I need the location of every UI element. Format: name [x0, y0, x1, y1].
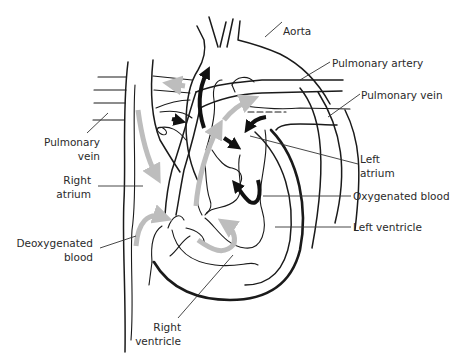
label-aorta: Aorta	[283, 25, 311, 37]
vena-cava	[123, 60, 180, 352]
oxy-arrow-left-ventricle	[236, 180, 260, 203]
label-pulmonary-vein-right: Pulmonary vein	[361, 89, 443, 101]
deoxy-arrow-pulmonary-left	[172, 84, 185, 86]
label-left-atrium-line1: Left	[360, 153, 380, 165]
oxy-arrow-atrium	[224, 138, 236, 146]
leader-right-ventricle	[178, 255, 233, 318]
heart-diagram: Aorta Pulmonary artery Pulmonary vein Pu…	[0, 0, 466, 361]
leader-aorta	[265, 22, 282, 37]
label-left-ventricle: Left ventricle	[353, 221, 422, 233]
label-pulmonary-artery: Pulmonary artery	[332, 57, 423, 69]
label-right-atrium-line2: atrium	[56, 188, 91, 200]
label-right-ventricle-line2: ventricle	[135, 335, 181, 347]
leader-pulmonary-vein-right	[328, 94, 360, 117]
label-pulmonary-vein-left-line2: vein	[78, 150, 100, 162]
deoxy-arrow-into-atrium	[136, 216, 163, 246]
label-deoxygenated-blood-line1: Deoxygenated	[16, 237, 93, 249]
label-deoxygenated-blood-line2: blood	[64, 251, 93, 263]
deoxy-arrow-vena-cava	[138, 110, 156, 175]
label-left-atrium-line2: atrium	[360, 167, 395, 179]
pulmonary-artery	[165, 80, 343, 215]
label-oxygenated-blood: Oxygenated blood	[353, 190, 450, 202]
deoxy-arrow-pulmonary-trunk	[196, 128, 218, 206]
oxy-arrow-aorta	[200, 72, 207, 128]
label-right-ventricle-line1: Right	[153, 321, 181, 333]
leader-pulmonary-vein-left	[87, 113, 108, 133]
leader-deoxygenated-blood	[100, 236, 136, 248]
label-pulmonary-vein-left-line1: Pulmonary	[44, 136, 100, 148]
deoxy-arrow-right-ventricle	[198, 224, 235, 251]
oxy-arrow-right-pv	[248, 117, 266, 128]
label-right-atrium-line1: Right	[63, 174, 91, 186]
oxy-arrow-left-pv	[172, 119, 180, 121]
deoxy-arrow-pulmonary-right	[224, 100, 250, 120]
